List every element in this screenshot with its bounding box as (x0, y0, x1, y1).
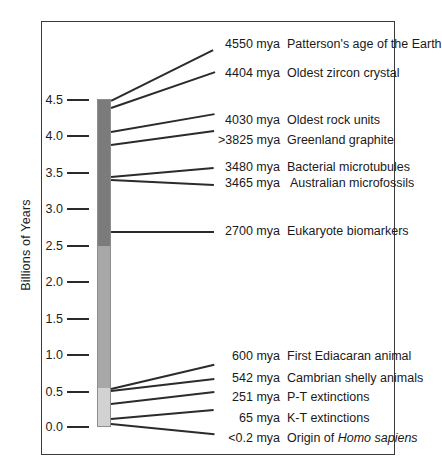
y-tick-1-5: 1.5 (0, 312, 97, 326)
y-tick-mark (67, 172, 89, 174)
event-description: Australian microfossils (290, 176, 414, 190)
y-tick-label: 4.0 (23, 129, 63, 143)
y-tick-3-5: 3.5 (0, 166, 97, 180)
event-age: 3480 mya (218, 160, 280, 175)
event-description: First Ediacaran animal (287, 349, 411, 363)
event-age: 2700 mya (218, 224, 280, 239)
event-description: Greenland graphite (287, 133, 394, 147)
event-age: <0.2 mya (218, 431, 280, 446)
event-label-542: 542 myaCambrian shelly animals (218, 371, 423, 386)
event-description: Patterson's age of the Earth (287, 37, 442, 51)
y-tick-3-0: 3.0 (0, 202, 97, 216)
event-label-homo-sapiens: <0.2 myaOrigin of Homo sapiens (218, 431, 418, 446)
event-age: 3465 mya (218, 176, 280, 191)
y-tick-0-0: 0.0 (0, 420, 97, 434)
event-age: 4404 mya (218, 66, 280, 81)
y-tick-label: 2.0 (23, 275, 63, 289)
leader-line-2700 (111, 231, 214, 233)
bar-segment-phanerozoic (98, 388, 110, 427)
event-age: 4030 mya (218, 113, 280, 128)
event-description: K-T extinctions (287, 411, 369, 425)
event-description-text: Origin of (287, 431, 338, 445)
species-name-italic: Homo sapiens (338, 431, 418, 445)
y-tick-label: 3.5 (23, 166, 63, 180)
event-label-4550: 4550 myaPatterson's age of the Earth (218, 37, 442, 52)
event-description: Cambrian shelly animals (287, 371, 423, 385)
y-tick-4-0: 4.0 (0, 129, 97, 143)
y-tick-mark (67, 245, 89, 247)
event-description: P-T extinctions (287, 390, 369, 404)
y-tick-mark (67, 281, 89, 283)
event-description: Eukaryote biomarkers (287, 224, 409, 238)
event-description: Bacterial microtubules (287, 160, 410, 174)
event-description: Origin of Homo sapiens (287, 431, 418, 445)
event-label-3480: 3480 myaBacterial microtubules (218, 160, 410, 175)
event-label-251: 251 myaP-T extinctions (218, 390, 369, 405)
y-tick-1-0: 1.0 (0, 348, 97, 362)
bar-segment-archean (98, 100, 110, 246)
y-tick-label: 0.0 (23, 420, 63, 434)
event-description: Oldest zircon crystal (287, 66, 400, 80)
event-label-2700: 2700 myaEukaryote biomarkers (218, 224, 409, 239)
y-tick-mark (67, 354, 89, 356)
y-tick-label: 0.5 (23, 385, 63, 399)
y-tick-mark (67, 99, 89, 101)
y-tick-2-5: 2.5 (0, 239, 97, 253)
geologic-time-bar (97, 99, 111, 427)
y-tick-mark (67, 318, 89, 320)
y-tick-label: 1.0 (23, 348, 63, 362)
y-tick-mark (67, 208, 89, 210)
y-tick-label: 3.0 (23, 202, 63, 216)
y-tick-label: 2.5 (23, 239, 63, 253)
event-label-3825: >3825 myaGreenland graphite (218, 133, 394, 148)
y-tick-mark (67, 391, 89, 393)
y-tick-0-5: 0.5 (0, 385, 97, 399)
y-tick-mark (67, 426, 89, 428)
y-tick-label: 4.5 (23, 93, 63, 107)
bar-segment-proterozoic (98, 246, 110, 388)
event-age: 600 mya (218, 349, 280, 364)
event-label-4030: 4030 myaOldest rock units (218, 113, 380, 128)
event-description: Oldest rock units (287, 113, 380, 127)
event-age: >3825 mya (218, 133, 280, 148)
y-tick-label: 1.5 (23, 312, 63, 326)
y-tick-mark (67, 135, 89, 137)
event-age: 542 mya (218, 371, 280, 386)
event-label-3465: 3465 myaAustralian microfossils (218, 176, 414, 191)
event-age: 4550 mya (218, 37, 280, 52)
y-tick-2-0: 2.0 (0, 275, 97, 289)
event-label-600: 600 myaFirst Ediacaran animal (218, 349, 411, 364)
y-tick-4-5: 4.5 (0, 93, 97, 107)
event-label-4404: 4404 myaOldest zircon crystal (218, 66, 400, 81)
event-label-65: 65 myaK-T extinctions (218, 411, 369, 426)
event-age: 65 mya (218, 411, 280, 426)
event-age: 251 mya (218, 390, 280, 405)
